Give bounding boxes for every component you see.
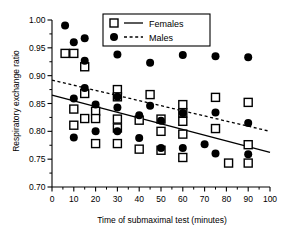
data-point-male xyxy=(135,134,143,142)
chart-figure: Respiratory exchange ratio Time of subma… xyxy=(0,0,283,234)
legend-label-males: Males xyxy=(149,33,174,43)
data-point-male xyxy=(113,51,121,59)
data-point-male xyxy=(157,117,165,125)
x-tick-label: 90 xyxy=(243,194,253,204)
data-point-male xyxy=(113,93,121,101)
data-point-male xyxy=(81,57,89,65)
data-point-male xyxy=(113,103,121,111)
data-point-female xyxy=(212,93,220,101)
y-tick-label: 1.00 xyxy=(29,15,46,25)
data-point-male xyxy=(212,150,220,158)
legend-marker-males xyxy=(110,33,118,41)
legend-label-females: Females xyxy=(149,19,184,29)
data-point-female xyxy=(70,121,78,129)
data-point-female xyxy=(61,49,69,57)
data-point-female xyxy=(70,105,78,113)
y-tick-label: 0.70 xyxy=(29,182,46,192)
data-point-male xyxy=(201,140,209,148)
data-point-male xyxy=(70,133,78,141)
data-point-male xyxy=(179,144,187,152)
x-tick-label: 10 xyxy=(69,194,79,204)
chart-legend[interactable]: FemalesMales xyxy=(103,14,210,46)
data-point-male xyxy=(135,111,143,119)
x-tick-label: 60 xyxy=(178,194,188,204)
data-point-female xyxy=(113,115,121,123)
data-point-female xyxy=(146,91,154,99)
data-point-female xyxy=(92,115,100,123)
y-tick-label: 0.95 xyxy=(29,43,46,53)
x-tick-label: 80 xyxy=(222,194,232,204)
scatter-plot: 0.700.750.800.850.900.951.00010203040506… xyxy=(0,0,283,234)
data-point-male xyxy=(212,108,220,116)
data-point-female xyxy=(179,130,187,138)
x-tick-label: 70 xyxy=(200,194,210,204)
data-point-male xyxy=(146,102,154,110)
data-point-female xyxy=(244,141,252,149)
y-tick-label: 0.80 xyxy=(29,126,46,136)
data-point-male xyxy=(244,150,252,158)
data-point-male xyxy=(179,51,187,59)
x-tick-label: 0 xyxy=(50,194,55,204)
data-point-male xyxy=(179,109,187,117)
y-tick-label: 0.75 xyxy=(29,154,46,164)
y-tick-label: 0.85 xyxy=(29,99,46,109)
x-tick-label: 40 xyxy=(134,194,144,204)
data-point-male xyxy=(244,119,252,127)
data-point-male xyxy=(146,59,154,67)
legend-marker-females xyxy=(110,19,118,27)
data-point-female xyxy=(225,159,233,167)
data-point-male xyxy=(70,94,78,102)
y-tick-label: 0.90 xyxy=(29,71,46,81)
data-point-male xyxy=(92,101,100,109)
data-point-male xyxy=(61,22,69,30)
data-point-female xyxy=(179,117,187,125)
data-point-male xyxy=(244,53,252,61)
data-point-male xyxy=(81,34,89,42)
x-tick-label: 20 xyxy=(91,194,101,204)
x-tick-label: 100 xyxy=(263,194,277,204)
data-point-female xyxy=(70,49,78,57)
data-point-female xyxy=(179,153,187,161)
data-point-male xyxy=(157,144,165,152)
data-point-male xyxy=(113,127,121,135)
data-point-female xyxy=(244,159,252,167)
data-point-female xyxy=(157,127,165,135)
data-point-female xyxy=(92,140,100,148)
x-tick-label: 30 xyxy=(113,194,123,204)
data-point-female xyxy=(81,115,89,123)
data-point-male xyxy=(81,84,89,92)
data-point-male xyxy=(92,127,100,135)
data-point-female xyxy=(244,98,252,106)
data-point-male xyxy=(70,38,78,46)
data-point-female xyxy=(179,101,187,109)
data-point-female xyxy=(113,140,121,148)
data-point-female xyxy=(212,125,220,133)
data-point-female xyxy=(135,145,143,153)
x-tick-label: 50 xyxy=(156,194,166,204)
data-point-male xyxy=(212,52,220,60)
